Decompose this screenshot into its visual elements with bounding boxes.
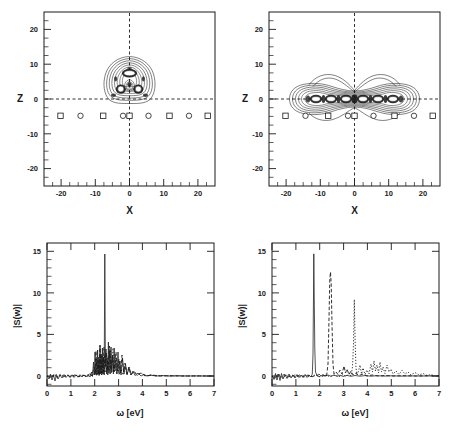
atom-square <box>205 113 210 118</box>
atom-circle <box>411 113 416 118</box>
xtick-label: 1 <box>294 389 298 398</box>
xtick-label: -10 <box>90 189 101 198</box>
y-axis-ticks <box>269 21 276 178</box>
xtick-label: 5 <box>389 389 393 398</box>
xtick-label: 10 <box>385 189 393 198</box>
atom-circle <box>120 113 125 118</box>
ytick-label: 0 <box>259 95 263 104</box>
xtick-label: 2 <box>93 389 97 398</box>
xtick-label: -20 <box>56 189 67 198</box>
atom-square <box>326 113 331 118</box>
x-axis-ticks <box>272 243 439 386</box>
ytick-label: 5 <box>37 330 41 339</box>
xtick-label: 5 <box>164 389 168 398</box>
x-axis-title: X <box>351 205 358 216</box>
ytick-label: 15 <box>33 247 41 256</box>
atom-square <box>167 113 172 118</box>
atom-square <box>58 113 63 118</box>
xtick-label: 1 <box>69 389 73 398</box>
y-axis-ticks <box>44 21 51 178</box>
xtick-label: 0 <box>270 389 274 398</box>
atom-square <box>101 113 106 118</box>
ytick-label: 15 <box>258 247 266 256</box>
ytick-label: 20 <box>30 25 38 34</box>
ytick-label: 10 <box>258 289 266 298</box>
xtick-label: 7 <box>437 389 441 398</box>
xtick-label: 10 <box>160 189 168 198</box>
top-right-svg: 20 10 0 -10 -20 -20 -10 0 10 20 X Z <box>225 0 450 224</box>
y-axis-ticks <box>47 251 214 384</box>
ytick-label: 10 <box>255 60 263 69</box>
ytick-label: 0 <box>262 372 266 381</box>
figure-canvas: 20 10 0 -10 -20 -20 -10 0 10 20 X Z <box>0 0 450 448</box>
y-axis-title: |S(w)| <box>237 304 247 328</box>
ytick-label: 20 <box>255 25 263 34</box>
x-axis-title: ω [eV] <box>116 408 143 418</box>
xtick-label: 0 <box>352 189 356 198</box>
top-left-svg: 20 10 0 -10 -20 -20 -10 0 10 20 X Z <box>0 0 225 224</box>
xtick-label: 7 <box>212 389 216 398</box>
x-axis-title: X <box>126 205 133 216</box>
x-axis-ticks <box>278 179 432 186</box>
ytick-label: 0 <box>34 95 38 104</box>
xtick-label: -10 <box>315 189 326 198</box>
series-solid <box>272 254 439 381</box>
atom-row <box>58 113 211 118</box>
atom-row <box>283 113 436 118</box>
atom-circle <box>78 113 83 118</box>
xtick-label: 2 <box>318 389 322 398</box>
y-axis-title: |S(w)| <box>12 304 22 328</box>
y-axis-title: Z <box>17 93 23 104</box>
ytick-label: 0 <box>37 372 41 381</box>
ytick-label: 5 <box>262 330 266 339</box>
atom-circle <box>186 113 191 118</box>
bottom-right-svg: 15 10 5 0 0 1 2 3 4 5 6 7 ω [eV] |S(w)| <box>225 224 450 448</box>
panel-bottom-left-spectrum: 15 10 5 0 0 1 2 3 4 5 6 7 ω [eV] |S(w)| <box>0 224 225 448</box>
xtick-label: 20 <box>419 189 427 198</box>
y-axis-ticks <box>272 251 439 384</box>
ytick-label: -20 <box>252 164 263 173</box>
atom-circle <box>345 113 350 118</box>
xtick-label: 6 <box>413 389 417 398</box>
xtick-label: 3 <box>117 389 121 398</box>
xtick-label: 0 <box>45 389 49 398</box>
xtick-label: 20 <box>194 189 202 198</box>
atom-square <box>392 113 397 118</box>
panel-top-right-contour: 20 10 0 -10 -20 -20 -10 0 10 20 X Z <box>225 0 450 224</box>
ytick-label: 10 <box>30 60 38 69</box>
xtick-label: 6 <box>188 389 192 398</box>
bottom-left-svg: 15 10 5 0 0 1 2 3 4 5 6 7 ω [eV] |S(w)| <box>0 224 225 448</box>
panel-bottom-right-spectrum: 15 10 5 0 0 1 2 3 4 5 6 7 ω [eV] |S(w)| <box>225 224 450 448</box>
ytick-label: -20 <box>27 164 38 173</box>
y-axis-title: Z <box>242 93 248 104</box>
ytick-label: -10 <box>27 130 38 139</box>
ytick-label: -10 <box>252 130 263 139</box>
xtick-label: -20 <box>281 189 292 198</box>
contour-nodal-chain <box>306 95 403 104</box>
atom-circle <box>371 113 376 118</box>
series-solid <box>47 254 214 381</box>
xtick-label: 3 <box>342 389 346 398</box>
atom-square <box>430 113 435 118</box>
series-dashed <box>272 272 439 379</box>
x-axis-ticks <box>47 243 214 386</box>
atom-square <box>127 113 132 118</box>
plot-frame <box>47 243 214 386</box>
panel-top-left-contour: 20 10 0 -10 -20 -20 -10 0 10 20 X Z <box>0 0 225 224</box>
xtick-label: 4 <box>140 389 145 398</box>
atom-square <box>352 113 357 118</box>
atom-square <box>283 113 288 118</box>
x-axis-ticks <box>53 179 207 186</box>
series-dotted <box>272 300 439 378</box>
plot-frame <box>272 243 439 386</box>
ytick-label: 10 <box>33 289 41 298</box>
x-axis-title: ω [eV] <box>341 408 368 418</box>
atom-circle <box>146 113 151 118</box>
xtick-label: 0 <box>127 189 131 198</box>
xtick-label: 4 <box>365 389 370 398</box>
atom-circle <box>303 113 308 118</box>
